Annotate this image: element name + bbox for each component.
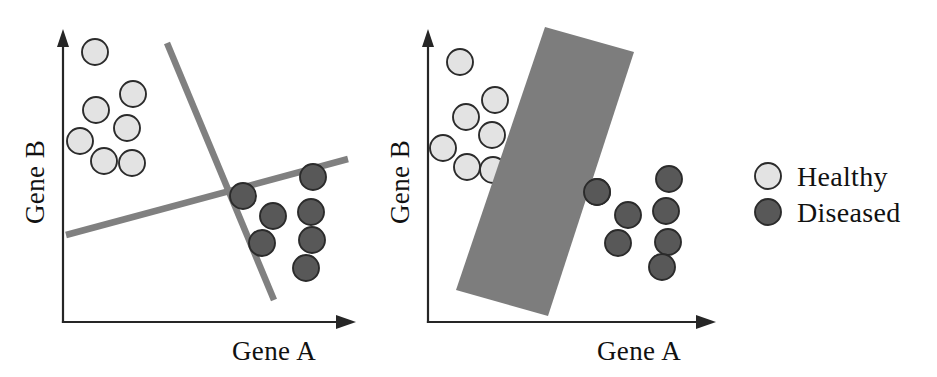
legend-label-healthy: Healthy [797,161,888,192]
data-point-diseased [299,227,325,253]
data-point-diseased [649,254,675,280]
left-y-axis [57,29,69,322]
data-point-diseased [260,203,286,229]
data-point-healthy [91,148,117,174]
data-point-healthy [114,115,140,141]
legend-item-healthy: Healthy [755,161,888,192]
data-point-healthy [83,97,109,123]
right-y-axis [422,29,434,322]
data-point-healthy [482,87,508,113]
data-point-healthy [82,39,108,65]
right-y-axis-label: Gene B [385,140,415,224]
right-x-axis [428,315,716,329]
figure-canvas: Gene B Gene A [0,0,937,377]
data-point-diseased [655,229,681,255]
data-point-healthy [454,154,480,180]
right-diseased-points [584,166,682,280]
left-x-axis [63,315,356,329]
right-panel: Gene B Gene A [385,27,716,366]
data-point-healthy [120,81,146,107]
data-point-diseased [293,255,319,281]
legend: Healthy Diseased [755,161,900,228]
left-x-axis-label: Gene A [232,336,316,366]
data-point-healthy [453,104,479,130]
right-healthy-points [430,49,508,183]
legend-swatch-healthy-icon [755,163,781,189]
steep-descending-line-icon [167,43,274,300]
legend-label-diseased: Diseased [797,197,900,228]
data-point-diseased [615,202,641,228]
data-point-diseased [584,179,610,205]
classification-figure: Gene B Gene A [0,0,937,377]
data-point-diseased [298,199,324,225]
data-point-healthy [430,135,456,161]
left-healthy-points [67,39,146,176]
data-point-diseased [605,230,631,256]
left-y-axis-label: Gene B [20,140,50,224]
legend-item-diseased: Diseased [755,197,900,228]
left-panel: Gene B Gene A [20,29,356,366]
data-point-diseased [656,166,682,192]
data-point-diseased [653,198,679,224]
data-point-healthy [447,49,473,75]
right-x-axis-label: Gene A [597,336,681,366]
data-point-diseased [300,164,326,190]
data-point-diseased [249,230,275,256]
legend-swatch-diseased-icon [755,199,781,225]
data-point-healthy [67,128,93,154]
data-point-healthy [479,122,505,148]
data-point-healthy [119,150,145,176]
data-point-diseased [230,183,256,209]
